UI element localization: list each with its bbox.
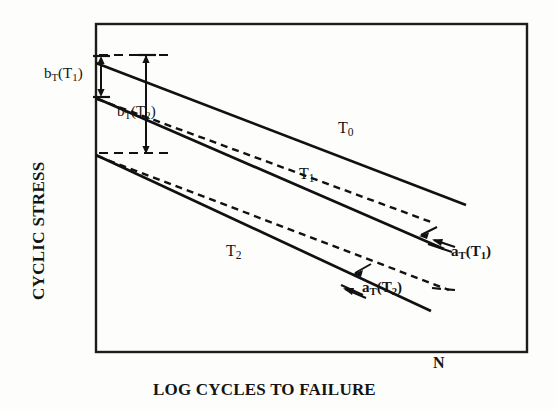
shift-label-a-t1: aT(T1)	[451, 244, 491, 261]
shift-trailing-dash	[432, 288, 455, 290]
curve-t0	[96, 63, 466, 205]
x-axis-label: LOG CYCLES TO FAILURE	[153, 381, 376, 398]
figure-container: T0 T1 T2 bT(T1) bT(T2) aT(T1) aT(T2) N L…	[0, 0, 556, 409]
shift-label-a-t2: aT(T2)	[362, 280, 402, 297]
dimension-label-b-t1: bT(T1)	[44, 66, 83, 83]
curve-label-t0: T0	[338, 120, 354, 139]
dimension-label-b-t2: bT(T2)	[117, 104, 156, 121]
curve-label-t2: T2	[226, 243, 242, 262]
curve-label-t1: T1	[299, 166, 315, 185]
snc-curve-plot	[0, 0, 556, 409]
x-axis-symbol: N	[433, 355, 445, 371]
plot-frame	[96, 24, 527, 352]
y-axis-label: CYCLIC STRESS	[30, 161, 47, 300]
